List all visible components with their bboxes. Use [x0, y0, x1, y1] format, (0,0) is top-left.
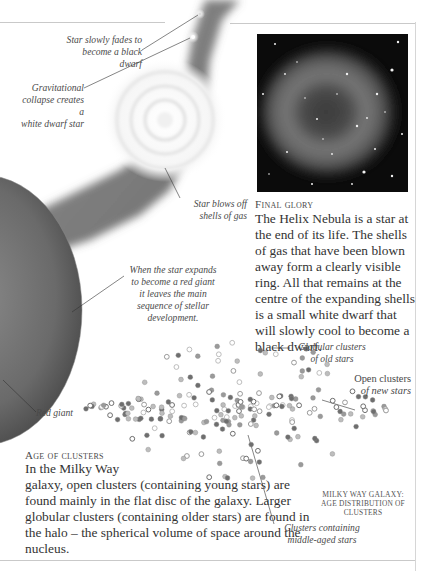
cluster-dot: [286, 435, 291, 440]
cluster-dot: [214, 422, 219, 427]
cluster-dot: [238, 400, 243, 405]
cluster-dot: [274, 431, 279, 436]
cluster-dot: [237, 409, 242, 414]
cluster-dot: [220, 427, 225, 432]
cluster-dot: [216, 358, 221, 363]
cluster-dot: [141, 410, 146, 415]
cluster-dot: [266, 405, 271, 410]
age-of-clusters-heading: Age of clusters: [25, 449, 315, 461]
cluster-dot: [360, 414, 365, 419]
cluster-dot: [330, 452, 335, 457]
cluster-dot: [226, 408, 231, 413]
cluster-dot: [254, 423, 259, 428]
cluster-dot: [273, 352, 278, 357]
cluster-dot: [177, 393, 182, 398]
cluster-dot: [292, 426, 297, 431]
cluster-dot: [230, 431, 235, 436]
cluster-dot: [289, 396, 294, 401]
cluster-dot: [232, 415, 237, 420]
cluster-dot: [384, 408, 389, 413]
cluster-dot: [280, 404, 285, 409]
cluster-dot: [361, 404, 366, 409]
cluster-dot: [146, 407, 151, 412]
cluster-dot: [170, 403, 175, 408]
cluster-dot: [239, 404, 244, 409]
cluster-dot: [370, 398, 375, 403]
cluster-dot: [158, 417, 163, 422]
cluster-dot: [224, 419, 229, 424]
cluster-dot: [267, 412, 272, 417]
cluster-dot: [338, 409, 343, 414]
cluster-dot: [151, 404, 156, 409]
cluster-dot: [334, 405, 339, 410]
cluster-dot: [126, 401, 131, 406]
cluster-dot: [212, 415, 217, 420]
cluster-dot: [204, 419, 209, 424]
cluster-dot: [195, 354, 200, 359]
cluster-dot: [170, 409, 175, 414]
cluster-dot: [138, 416, 143, 421]
cluster-dot: [210, 374, 215, 379]
cluster-dot: [248, 397, 253, 402]
cluster-dot: [257, 391, 262, 396]
cluster-dot: [188, 429, 193, 434]
cluster-dot: [193, 430, 198, 435]
cluster-dot: [231, 369, 236, 374]
cluster-dot: [142, 402, 147, 407]
cluster-dot: [277, 394, 282, 399]
cluster-dot: [312, 436, 317, 441]
cluster-dot: [174, 365, 179, 370]
cluster-dot: [348, 412, 353, 417]
cluster-dot: [160, 433, 165, 438]
cluster-dot: [115, 417, 120, 422]
cluster-dot: [299, 374, 304, 379]
cluster-dot: [237, 380, 242, 385]
cluster-dot: [239, 414, 244, 419]
cluster-dot: [152, 426, 157, 431]
cluster-dot: [235, 359, 240, 364]
cluster-dot: [330, 398, 335, 403]
caption-open-clusters: Open clusters of new stars: [345, 373, 411, 397]
cluster-dot: [188, 375, 193, 380]
cluster-dot: [84, 406, 89, 411]
cluster-dot: [300, 369, 305, 374]
cluster-dot: [149, 417, 154, 422]
cluster-dot: [129, 406, 134, 411]
cluster-dot: [142, 380, 147, 385]
cluster-dot: [136, 396, 141, 401]
cluster-dot: [249, 442, 254, 447]
cluster-dot: [219, 412, 224, 417]
cluster-dot: [221, 403, 226, 408]
cluster-dot: [252, 407, 257, 412]
cluster-dot: [287, 403, 292, 408]
age-of-clusters-section: Age of clusters In the Milky Way galaxy,…: [25, 449, 315, 557]
cluster-dot: [201, 435, 206, 440]
cluster-dot: [269, 395, 274, 400]
cluster-dot: [126, 416, 131, 421]
cluster-dot: [221, 392, 226, 397]
cluster-dot: [371, 409, 376, 414]
cluster-dot: [168, 414, 173, 419]
cluster-dot: [237, 422, 242, 427]
cluster-dot: [182, 403, 187, 408]
cluster-dot: [252, 414, 257, 419]
cluster-dot: [317, 371, 322, 376]
cluster-dot: [343, 400, 348, 405]
cluster-dot: [258, 348, 263, 353]
cluster-dot: [193, 402, 198, 407]
cluster-dot: [167, 419, 172, 424]
cluster-dot: [101, 403, 106, 408]
cluster-dot: [108, 413, 113, 418]
cluster-dot: [192, 395, 197, 400]
cluster-dot: [354, 424, 359, 429]
cluster-dot: [290, 420, 295, 425]
cluster-dot: [187, 392, 192, 397]
cluster-dot: [196, 383, 201, 388]
cluster-dot: [207, 390, 212, 395]
cluster-dot: [318, 414, 323, 419]
age-of-clusters-body: galaxy, open clusters (containing young …: [25, 477, 315, 557]
cluster-dot: [263, 350, 268, 355]
cluster-dot: [296, 434, 301, 439]
caption-globular-clusters: Globular clusters of old stars: [292, 341, 372, 365]
cluster-dot: [88, 403, 93, 408]
